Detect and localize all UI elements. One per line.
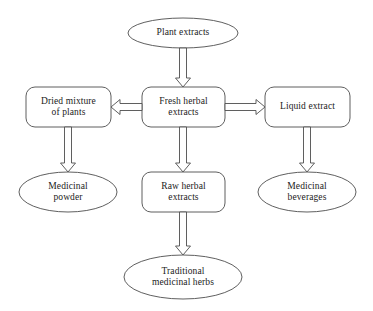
node-shape-medicinal-beverages[interactable] [258, 172, 356, 212]
arrow-plant-to-fresh-icon [176, 48, 191, 87]
arrow-fresh-to-raw-icon [176, 127, 191, 172]
node-shape-fresh-herbal-extracts[interactable] [142, 87, 225, 127]
node-shape-dried-mixture-of-plants[interactable] [26, 87, 111, 127]
arrow-raw-to-traditional-icon [176, 212, 191, 255]
flowchart-diagram: Plant extracts Dried mixture of plants F… [0, 0, 373, 311]
arrow-dried-to-powder-icon [61, 127, 76, 172]
diagram-shapes-layer [0, 0, 373, 311]
node-shape-liquid-extract[interactable] [265, 87, 350, 127]
arrow-fresh-to-liquid-icon [225, 100, 265, 115]
node-shape-medicinal-powder[interactable] [19, 172, 117, 212]
node-shape-raw-herbal-extracts[interactable] [142, 172, 225, 212]
node-shape-plant-extracts[interactable] [128, 18, 238, 48]
arrow-fresh-to-dried-icon [111, 100, 142, 115]
arrow-liquid-to-beverages-icon [300, 127, 315, 172]
node-shape-traditional-medicinal-herbs[interactable] [124, 255, 242, 299]
